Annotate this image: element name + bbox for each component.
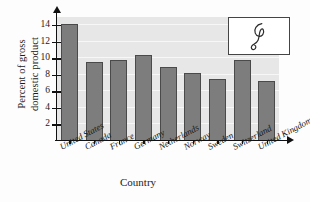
y-tick [52, 124, 61, 125]
x-axis-title: Country [120, 176, 156, 188]
y-tick-label: 4 [28, 103, 50, 113]
y-tick [52, 75, 61, 76]
y-tick-label: 12 [28, 37, 50, 47]
gridline [57, 57, 279, 58]
bar-switzerland [234, 60, 251, 141]
bar-united-states [61, 24, 78, 141]
bar-sweden [209, 79, 226, 141]
bar-chart: Percent of gross domestic product 246810… [0, 0, 310, 202]
y-axis-arrow [53, 6, 61, 13]
bar-germany [135, 55, 152, 141]
y-tick-label: 6 [28, 86, 50, 96]
bar-france [110, 60, 127, 141]
y-axis-line [56, 12, 57, 141]
doodle-loop-icon [228, 17, 290, 55]
y-tick-label: 10 [28, 53, 50, 63]
y-tick [52, 25, 61, 26]
y-tick [52, 91, 61, 92]
y-tick-label: 2 [28, 119, 50, 129]
y-tick [52, 58, 61, 59]
y-tick [52, 42, 61, 43]
y-tick [52, 108, 61, 109]
y-tick-label: 14 [28, 20, 50, 30]
y-tick-label: 8 [28, 70, 50, 80]
